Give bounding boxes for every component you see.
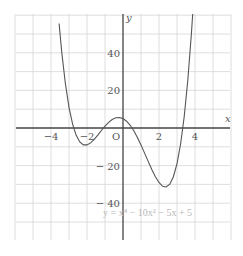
function-plot: −4−2O24 4020− 20− 40 x y y = x⁴ − 10x² −… — [0, 0, 243, 256]
equation-annotation: y = x⁴ − 10x² − 5x + 5 — [103, 207, 192, 218]
x-tick-label: 4 — [192, 131, 198, 142]
x-tick-label: −4 — [44, 131, 59, 142]
function-curve — [59, 6, 193, 187]
x-axis-label: x — [225, 113, 231, 124]
y-tick-label: 20 — [107, 85, 120, 96]
y-tick-label: 40 — [107, 48, 120, 59]
y-tick-label: − 20 — [96, 161, 120, 172]
x-tick-labels: −4−2O24 — [44, 131, 199, 142]
y-axis-label: y — [125, 12, 132, 23]
x-tick-label: 2 — [156, 131, 162, 142]
x-tick-label: −2 — [80, 131, 95, 142]
x-tick-label: O — [112, 131, 120, 142]
